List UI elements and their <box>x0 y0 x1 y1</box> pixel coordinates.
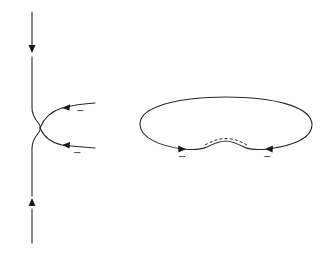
sign-lower-arc: − <box>73 147 81 158</box>
right-figure: − − <box>140 97 312 162</box>
vertical-strand-middle <box>32 57 41 196</box>
diagram-svg: − − − − <box>0 0 326 253</box>
sign-upper-arc: − <box>76 105 84 116</box>
closed-loop <box>140 97 312 150</box>
dashed-arc <box>205 139 247 146</box>
arrow-up-icon <box>29 198 36 206</box>
arrow-left-icon <box>62 142 70 149</box>
left-figure: − − <box>29 12 96 243</box>
sign-bottom-right: − <box>263 151 271 162</box>
arrow-down-icon <box>29 45 36 53</box>
sign-bottom-left: − <box>178 151 186 162</box>
diagram-canvas: − − − − <box>0 0 326 253</box>
